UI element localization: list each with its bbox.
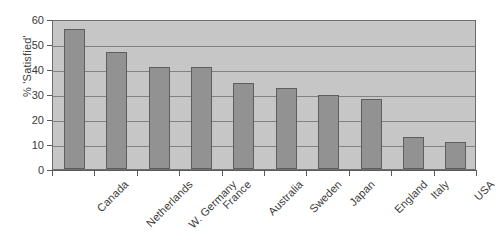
- bar: [318, 95, 339, 169]
- x-axis-tick-mark: [391, 171, 392, 176]
- x-axis-tick-label: Canada: [95, 178, 131, 214]
- bar: [149, 67, 170, 170]
- x-axis-tick-mark: [434, 171, 435, 176]
- x-axis-tick-label: Japan: [347, 178, 377, 208]
- x-axis-tick-label: Sweden: [307, 178, 344, 215]
- x-axis-tick-label: Netherlands: [143, 178, 194, 229]
- x-axis-tick-label: Italy: [428, 178, 451, 201]
- bar: [233, 83, 254, 169]
- y-axis-tick-mark: [47, 120, 52, 121]
- bar: [403, 137, 424, 170]
- x-axis-tick-mark: [179, 171, 180, 176]
- bar: [106, 52, 127, 170]
- y-axis-tick-label: 40: [0, 65, 44, 76]
- x-axis-tick-label: England: [392, 178, 430, 216]
- bar: [191, 67, 212, 170]
- x-axis-tick-label: USA: [472, 178, 496, 203]
- y-axis-tick-label: 10: [0, 140, 44, 151]
- x-axis-tick-mark: [137, 171, 138, 176]
- x-axis-tick-mark: [52, 171, 53, 176]
- y-axis-tick-labels: 0102030405060: [0, 20, 44, 170]
- y-axis-tick-mark: [47, 70, 52, 71]
- y-axis-tick-mark: [47, 95, 52, 96]
- bar: [445, 142, 466, 170]
- x-axis-tick-mark: [222, 171, 223, 176]
- x-axis-tick-label: France: [221, 178, 254, 211]
- bar: [276, 88, 297, 169]
- x-axis-tick-mark: [306, 171, 307, 176]
- bar: [361, 99, 382, 169]
- y-axis-tick-label: 20: [0, 115, 44, 126]
- y-axis-tick-mark: [47, 20, 52, 21]
- y-axis-tick-mark: [47, 145, 52, 146]
- x-axis-tick-mark: [264, 171, 265, 176]
- y-axis-tick-mark: [47, 45, 52, 46]
- y-axis-tick-label: 30: [0, 90, 44, 101]
- x-axis-tick-mark: [476, 171, 477, 176]
- y-axis-tick-label: 0: [0, 165, 44, 176]
- y-axis-tick-label: 50: [0, 40, 44, 51]
- bars-layer: [53, 21, 475, 169]
- x-axis-tick-label: Australia: [266, 178, 305, 217]
- x-axis-tick-label: W. Germany: [186, 178, 238, 230]
- x-axis-tick-mark: [349, 171, 350, 176]
- x-axis-tick-mark: [94, 171, 95, 176]
- plot-area: [52, 20, 476, 170]
- bar: [64, 29, 85, 169]
- y-axis-tick-label: 60: [0, 15, 44, 26]
